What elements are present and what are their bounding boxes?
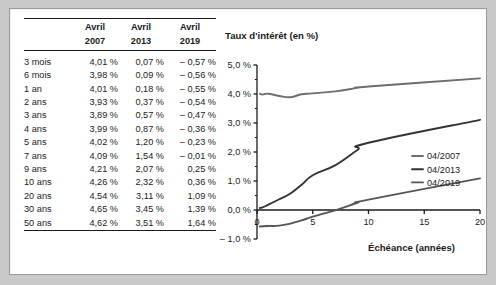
cell-avril2007: 4,54 % bbox=[72, 190, 118, 203]
table-row: 4 ans3,99 %0,87 %– 0,36 % bbox=[24, 123, 216, 136]
table-row: 7 ans4,09 %1,54 %– 0,01 % bbox=[24, 150, 216, 163]
cell-avril2013: 0,87 % bbox=[118, 123, 164, 136]
interest-rate-chart: Taux d'intérêt (en %) Échéance (années) … bbox=[216, 15, 488, 273]
cell-avril2007: 4,01 % bbox=[72, 56, 118, 69]
cell-avril2019: – 0,01 % bbox=[164, 150, 216, 163]
cell-avril2019: 0,36 % bbox=[164, 176, 216, 189]
cell-avril2007: 3,98 % bbox=[72, 69, 118, 82]
cell-maturity: 50 ans bbox=[24, 217, 72, 231]
cell-avril2007: 4,01 % bbox=[72, 83, 118, 96]
col-header-2007-line2: 2007 bbox=[72, 35, 118, 50]
cell-maturity: 6 mois bbox=[24, 69, 72, 82]
cell-avril2013: 0,37 % bbox=[118, 96, 164, 109]
cell-avril2013: 1,20 % bbox=[118, 136, 164, 149]
y-axis-tick-label: 0,0 % bbox=[228, 205, 252, 215]
cell-maturity: 10 ans bbox=[24, 176, 72, 189]
cell-maturity: 2 ans bbox=[24, 96, 72, 109]
cell-avril2007: 4,21 % bbox=[72, 163, 118, 176]
cell-avril2007: 4,62 % bbox=[72, 217, 118, 231]
y-axis-tick-label: 2,0 % bbox=[228, 147, 252, 157]
legend-label-04-2013: 04/2013 bbox=[427, 165, 460, 175]
legend-label-04-2007: 04/2007 bbox=[427, 151, 460, 161]
cell-maturity: 7 ans bbox=[24, 150, 72, 163]
cell-maturity: 3 mois bbox=[24, 56, 72, 69]
cell-avril2013: 0,18 % bbox=[118, 83, 164, 96]
table-row: 2 ans3,93 %0,37 %– 0,54 % bbox=[24, 96, 216, 109]
cell-avril2007: 3,89 % bbox=[72, 109, 118, 122]
cell-avril2007: 3,99 % bbox=[72, 123, 118, 136]
table-row: 3 mois4,01 %0,07 %– 0,57 % bbox=[24, 56, 216, 69]
chart-plot: – 1,0 %0,0 %1,0 %2,0 %3,0 %4,0 %5,0 %051… bbox=[216, 15, 488, 273]
cell-avril2019: – 0,57 % bbox=[164, 56, 216, 69]
cell-maturity: 5 ans bbox=[24, 136, 72, 149]
cell-avril2013: 0,07 % bbox=[118, 56, 164, 69]
legend-label-04-2019: 04/2019 bbox=[427, 178, 460, 188]
cell-avril2007: 4,26 % bbox=[72, 176, 118, 189]
table-header-row-line2: 2007 2013 2019 bbox=[24, 35, 216, 50]
x-axis-tick-label: 20 bbox=[475, 217, 485, 227]
cell-avril2013: 3,51 % bbox=[118, 217, 164, 231]
cell-maturity: 1 an bbox=[24, 83, 72, 96]
interest-rate-table: Avril Avril Avril 2007 2013 2019 bbox=[24, 18, 216, 233]
cell-avril2019: 1,09 % bbox=[164, 190, 216, 203]
y-axis-tick-label: 3,0 % bbox=[228, 118, 252, 128]
col-header-2013-line2: 2013 bbox=[118, 35, 164, 50]
cell-avril2019: – 0,36 % bbox=[164, 123, 216, 136]
series-line-04-2007 bbox=[260, 78, 480, 97]
cell-avril2007: 3,93 % bbox=[72, 96, 118, 109]
table-row: 1 an4,01 %0,18 %– 0,55 % bbox=[24, 83, 216, 96]
col-header-2019-line2: 2019 bbox=[164, 35, 216, 50]
col-header-2019-line1: Avril bbox=[164, 21, 216, 35]
table-bottom-rule bbox=[24, 231, 216, 234]
cell-avril2013: 1,54 % bbox=[118, 150, 164, 163]
cell-avril2019: 1,64 % bbox=[164, 217, 216, 231]
x-axis-tick-label: 15 bbox=[419, 217, 429, 227]
table-row: 20 ans4,54 %3,11 %1,09 % bbox=[24, 190, 216, 203]
cell-avril2019: – 0,54 % bbox=[164, 96, 216, 109]
cell-maturity: 9 ans bbox=[24, 163, 72, 176]
figure-frame: Avril Avril Avril 2007 2013 2019 bbox=[0, 0, 496, 285]
cell-avril2019: – 0,47 % bbox=[164, 109, 216, 122]
cell-maturity: 3 ans bbox=[24, 109, 72, 122]
table-row: 50 ans4,62 %3,51 %1,64 % bbox=[24, 217, 216, 231]
cell-avril2019: – 0,56 % bbox=[164, 69, 216, 82]
cell-avril2007: 4,02 % bbox=[72, 136, 118, 149]
cell-avril2007: 4,09 % bbox=[72, 150, 118, 163]
cell-maturity: 20 ans bbox=[24, 190, 72, 203]
table-body: 3 mois4,01 %0,07 %– 0,57 %6 mois3,98 %0,… bbox=[24, 56, 216, 231]
figure-panel: Avril Avril Avril 2007 2013 2019 bbox=[9, 8, 487, 275]
table-container: Avril Avril Avril 2007 2013 2019 bbox=[24, 18, 216, 233]
y-axis-tick-label: 5,0 % bbox=[228, 60, 252, 70]
table-row: 6 mois3,98 %0,09 %– 0,56 % bbox=[24, 69, 216, 82]
x-axis-tick-label: 10 bbox=[363, 217, 373, 227]
y-axis-tick-label: 1,0 % bbox=[228, 176, 252, 186]
col-header-2007-line1: Avril bbox=[72, 21, 118, 35]
table-row: 9 ans4,21 %2,07 %0,25 % bbox=[24, 163, 216, 176]
y-axis-tick-label: – 1,0 % bbox=[220, 234, 251, 244]
table-header-row-line1: Avril Avril Avril bbox=[24, 21, 216, 35]
cell-avril2013: 3,11 % bbox=[118, 190, 164, 203]
cell-avril2007: 4,65 % bbox=[72, 203, 118, 216]
col-header-maturity bbox=[24, 21, 72, 35]
col-header-2013-line1: Avril bbox=[118, 21, 164, 35]
table-footer bbox=[24, 231, 216, 234]
cell-avril2019: 0,25 % bbox=[164, 163, 216, 176]
cell-maturity: 4 ans bbox=[24, 123, 72, 136]
cell-avril2019: – 0,23 % bbox=[164, 136, 216, 149]
cell-avril2019: – 0,55 % bbox=[164, 83, 216, 96]
cell-avril2019: 1,39 % bbox=[164, 203, 216, 216]
y-axis-tick-label: 4,0 % bbox=[228, 89, 252, 99]
cell-maturity: 30 ans bbox=[24, 203, 72, 216]
cell-avril2013: 2,07 % bbox=[118, 163, 164, 176]
table-row: 3 ans3,89 %0,57 %– 0,47 % bbox=[24, 109, 216, 122]
cell-avril2013: 2,32 % bbox=[118, 176, 164, 189]
table-row: 30 ans4,65 %3,45 %1,39 % bbox=[24, 203, 216, 216]
table-header: Avril Avril Avril 2007 2013 2019 bbox=[24, 19, 216, 56]
x-axis-tick-label: 0 bbox=[254, 217, 259, 227]
cell-avril2013: 0,57 % bbox=[118, 109, 164, 122]
cell-avril2013: 0,09 % bbox=[118, 69, 164, 82]
table-row: 5 ans4,02 %1,20 %– 0,23 % bbox=[24, 136, 216, 149]
cell-avril2013: 3,45 % bbox=[118, 203, 164, 216]
table-row: 10 ans4,26 %2,32 %0,36 % bbox=[24, 176, 216, 189]
col-header-maturity-2 bbox=[24, 35, 72, 50]
